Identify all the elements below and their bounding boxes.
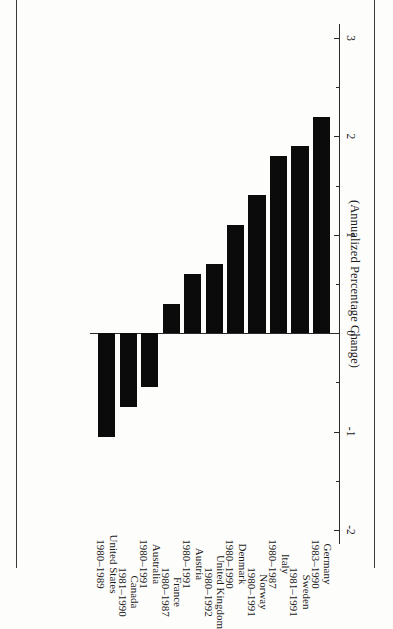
bar-row[interactable] bbox=[312, 24, 329, 544]
category-label-name: Australia bbox=[150, 539, 163, 589]
category-label-name: United States bbox=[107, 535, 120, 594]
axis-tick-label: -2 bbox=[345, 525, 357, 535]
rotated-chart: (Annualized Percentage Change) 3210-1-2 … bbox=[32, 24, 362, 544]
category-label-name: Canada bbox=[128, 567, 141, 617]
axis-tick-label: -1 bbox=[345, 427, 357, 437]
bar-row[interactable] bbox=[205, 24, 222, 544]
axis-tick-minor bbox=[336, 87, 340, 88]
axis-tick-minor bbox=[336, 481, 340, 482]
bar[interactable] bbox=[98, 333, 115, 436]
bar[interactable] bbox=[227, 225, 244, 333]
axis-tick-label: 1 bbox=[345, 232, 357, 238]
axis-tick-major bbox=[334, 333, 340, 334]
bar[interactable] bbox=[184, 274, 201, 333]
bar[interactable] bbox=[162, 304, 179, 334]
category-label-years: 1980–1989 bbox=[94, 535, 107, 594]
bar-row[interactable] bbox=[162, 24, 179, 544]
category-label-name: Austria bbox=[193, 539, 206, 589]
plot-area: 3210-1-2 Germany1983–1990Sweden1981–1991… bbox=[90, 24, 340, 544]
category-label-name: France bbox=[171, 567, 184, 617]
axis-tick-major bbox=[334, 432, 340, 433]
bar-row[interactable] bbox=[119, 24, 136, 544]
axis-tick-major bbox=[334, 530, 340, 531]
axis-tick-minor bbox=[336, 284, 340, 285]
category-label-name: Denmark bbox=[236, 539, 249, 589]
category-label-name: United Kingdom bbox=[214, 555, 227, 629]
category-label-name: Sweden bbox=[300, 567, 313, 617]
bar[interactable] bbox=[119, 333, 136, 407]
bar[interactable] bbox=[269, 156, 286, 333]
axis-tick-label: 3 bbox=[345, 35, 357, 41]
bar-row[interactable] bbox=[98, 24, 115, 544]
category-label: United States1980–1989 bbox=[94, 535, 119, 594]
bar[interactable] bbox=[291, 146, 308, 333]
axis-tick-major bbox=[334, 235, 340, 236]
axis-tick-label: 2 bbox=[345, 134, 357, 140]
category-label-name: Norway bbox=[257, 567, 270, 617]
bar-row[interactable] bbox=[184, 24, 201, 544]
axis-tick-minor bbox=[336, 382, 340, 383]
bar[interactable] bbox=[248, 195, 265, 333]
category-label-name: Italy bbox=[279, 539, 292, 589]
bar-row[interactable] bbox=[248, 24, 265, 544]
frame-rule-right bbox=[374, 0, 375, 568]
axis-tick-major bbox=[334, 38, 340, 39]
bar[interactable] bbox=[312, 117, 329, 333]
bar[interactable] bbox=[205, 264, 222, 333]
bar-row[interactable] bbox=[269, 24, 286, 544]
bar[interactable] bbox=[141, 333, 158, 387]
category-label-name: Germany bbox=[321, 539, 334, 589]
axis-tick-major bbox=[334, 136, 340, 137]
bar-row[interactable] bbox=[291, 24, 308, 544]
axis-tick-minor bbox=[336, 186, 340, 187]
axis-title: (Annualized Percentage Change) bbox=[347, 24, 362, 544]
axis-tick-label: 0 bbox=[345, 330, 357, 336]
bar-row[interactable] bbox=[141, 24, 158, 544]
frame-rule-left bbox=[16, 0, 17, 568]
bar-row[interactable] bbox=[227, 24, 244, 544]
